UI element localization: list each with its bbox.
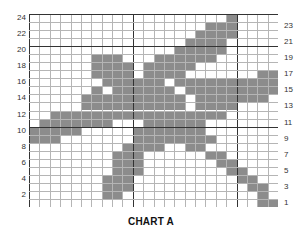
row-label: 17 [284,70,298,78]
row-label: 2 [12,191,26,199]
row-label: 6 [12,159,26,167]
row-label: 5 [284,167,298,175]
row-label: 19 [284,54,298,62]
row-label: 16 [12,78,26,86]
row-label: 7 [284,151,298,159]
row-label: 21 [284,38,298,46]
row-label: 12 [12,111,26,119]
chart-title: CHART A [0,216,302,227]
row-label: 18 [12,62,26,70]
row-label: 14 [12,94,26,102]
row-label: 20 [12,46,26,54]
row-label: 8 [12,143,26,151]
grid-lines [29,14,278,207]
row-label: 1 [284,199,298,207]
row-label: 23 [284,22,298,30]
row-label: 22 [12,30,26,38]
row-label: 13 [284,102,298,110]
row-label: 24 [12,14,26,22]
row-label: 15 [284,86,298,94]
row-label: 4 [12,175,26,183]
knitting-chart-grid [29,14,278,207]
row-label: 3 [284,183,298,191]
row-label: 11 [284,119,298,127]
row-label: 10 [12,127,26,135]
row-label: 9 [284,135,298,143]
